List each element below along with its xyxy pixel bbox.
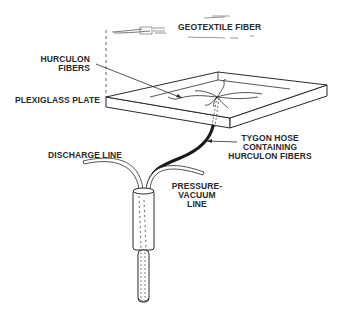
label-plexiglass-plate: PLEXIGLASS PLATE (15, 96, 100, 105)
label-geotextile-fiber: GEOTEXTILE FIBER (178, 23, 261, 32)
label-hurculon-fibers-line2: FIBERS (40, 64, 90, 73)
label-tygon-hose-line3: HURCULON FIBERS (222, 152, 318, 161)
label-pressure-vacuum-line: PRESSURE- VACUUM LINE (170, 182, 224, 209)
label-discharge-line: DISCHARGE LINE (48, 151, 122, 160)
label-pressure-vacuum-line3: LINE (170, 200, 224, 209)
sampler-cylinder (133, 188, 154, 302)
label-tygon-hose: TYGON HOSE CONTAINING HURCULON FIBERS (222, 134, 318, 161)
label-hurculon-fibers: HURCULON FIBERS (40, 55, 90, 73)
discharge-line-tube (83, 158, 143, 189)
plexiglass-plate (106, 72, 327, 128)
